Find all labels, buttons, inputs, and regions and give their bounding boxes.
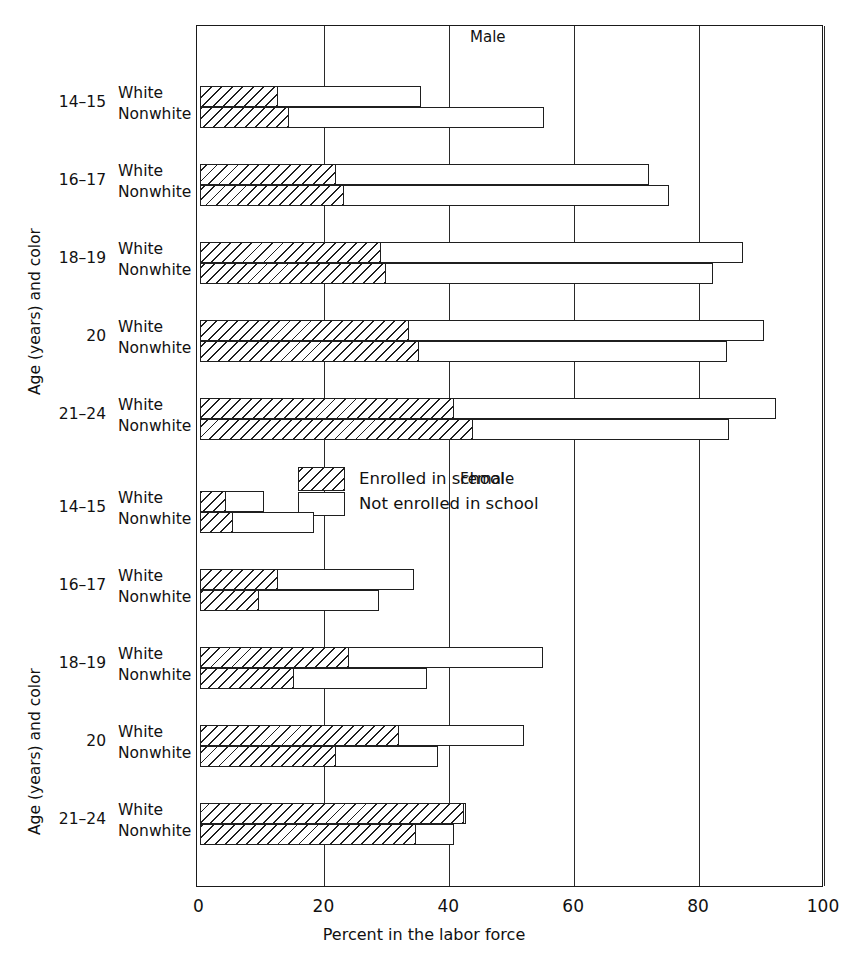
bar-row — [197, 263, 824, 284]
color-label: Nonwhite — [118, 510, 191, 528]
bar-segment-enrolled — [200, 590, 260, 611]
bar-segment-enrolled — [200, 419, 474, 440]
x-tick-label: 60 — [543, 896, 603, 916]
color-label: White — [118, 489, 163, 507]
bar-row — [197, 746, 824, 767]
color-label: Nonwhite — [118, 822, 191, 840]
color-label: Nonwhite — [118, 588, 191, 606]
color-label: White — [118, 645, 163, 663]
bar-segment-enrolled — [200, 668, 295, 689]
bar-row — [197, 419, 824, 440]
bar-row — [197, 725, 824, 746]
color-label: Nonwhite — [118, 105, 191, 123]
color-label: Nonwhite — [118, 417, 191, 435]
legend-item: Not enrolled in school — [298, 491, 539, 516]
bar-row — [197, 803, 824, 824]
bar-segment-enrolled — [200, 746, 337, 767]
age-group-label: 20 — [16, 327, 106, 345]
age-group-label: 20 — [16, 732, 106, 750]
bar-segment-enrolled — [200, 107, 290, 128]
x-tick-label: 20 — [293, 896, 353, 916]
color-label: White — [118, 801, 163, 819]
color-label: White — [118, 162, 163, 180]
bar-row — [197, 242, 824, 263]
bar-segment-enrolled — [200, 647, 349, 668]
color-label: White — [118, 84, 163, 102]
bar-row — [197, 164, 824, 185]
bar-row — [197, 341, 824, 362]
bar-row — [197, 86, 824, 107]
bar-segment-enrolled — [200, 164, 337, 185]
color-label: Nonwhite — [118, 261, 191, 279]
bar-segment-enrolled — [200, 824, 416, 845]
age-group-label: 18–19 — [16, 249, 106, 267]
panel-title-female: Female — [460, 470, 514, 488]
bar-segment-enrolled — [200, 242, 382, 263]
bar-row — [197, 320, 824, 341]
legend-label: Not enrolled in school — [359, 494, 539, 513]
bar-row — [197, 590, 824, 611]
bar-segment-enrolled — [200, 512, 234, 533]
x-tick-label: 100 — [793, 896, 848, 916]
bar-row — [197, 647, 824, 668]
bar-segment-enrolled — [200, 341, 420, 362]
figure: Age (years) and color Age (years) and co… — [0, 0, 848, 965]
panel-title-male: Male — [470, 28, 506, 46]
color-label: White — [118, 240, 163, 258]
bar-segment-enrolled — [200, 725, 400, 746]
color-label: Nonwhite — [118, 339, 191, 357]
plot-area — [196, 25, 823, 887]
color-label: White — [118, 723, 163, 741]
age-group-label: 16–17 — [16, 171, 106, 189]
x-tick-label: 80 — [668, 896, 728, 916]
bar-segment-enrolled — [200, 803, 465, 824]
color-label: White — [118, 396, 163, 414]
color-label: Nonwhite — [118, 183, 191, 201]
legend-swatch-hatched — [298, 467, 345, 491]
x-axis-title: Percent in the labor force — [0, 925, 848, 944]
bar-segment-enrolled — [200, 320, 410, 341]
bar-row — [197, 398, 824, 419]
bar-row — [197, 185, 824, 206]
age-group-label: 16–17 — [16, 576, 106, 594]
age-group-label: 14–15 — [16, 498, 106, 516]
x-tick-label: 0 — [169, 896, 229, 916]
color-label: White — [118, 567, 163, 585]
bar-segment-enrolled — [200, 185, 345, 206]
bar-segment-enrolled — [200, 569, 279, 590]
age-group-label: 18–19 — [16, 654, 106, 672]
color-label: Nonwhite — [118, 744, 191, 762]
x-tick-label: 40 — [418, 896, 478, 916]
age-group-label: 21–24 — [16, 810, 106, 828]
age-group-label: 14–15 — [16, 93, 106, 111]
bar-row — [197, 107, 824, 128]
bar-segment-enrolled — [200, 263, 387, 284]
color-label: Nonwhite — [118, 666, 191, 684]
bar-row — [197, 668, 824, 689]
bar-row — [197, 824, 824, 845]
color-label: White — [118, 318, 163, 336]
bar-segment-enrolled — [200, 398, 455, 419]
age-group-label: 21–24 — [16, 405, 106, 423]
bar-segment-enrolled — [200, 86, 279, 107]
gridline-100 — [824, 26, 825, 886]
bar-row — [197, 569, 824, 590]
bar-segment-enrolled — [200, 491, 226, 512]
